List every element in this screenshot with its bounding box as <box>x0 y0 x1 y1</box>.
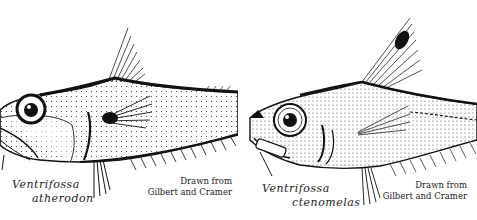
species-name: Ventrifossa ctenomelas <box>262 182 360 210</box>
species-epithet: atherodon <box>12 192 94 206</box>
credit-line-1: Drawn from <box>140 176 232 187</box>
illustration-credit: Drawn from Gilbert and Cramer <box>140 176 232 198</box>
credit-line-2: Gilbert and Cramer <box>375 191 467 202</box>
species-name: Ventrifossa atherodon <box>12 178 94 206</box>
illustration-credit: Drawn from Gilbert and Cramer <box>375 180 467 202</box>
species-epithet: ctenomelas <box>262 196 360 210</box>
species-genus: Ventrifossa <box>262 182 330 195</box>
credit-line-1: Drawn from <box>375 180 467 191</box>
credit-line-2: Gilbert and Cramer <box>140 187 232 198</box>
figure-ventrifossa-atherodon: Ventrifossa atherodon Drawn from Gilbert… <box>0 0 238 220</box>
figure-ventrifossa-ctenomelas: Ventrifossa ctenomelas Drawn from Gilber… <box>240 0 477 220</box>
species-genus: Ventrifossa <box>12 178 80 191</box>
